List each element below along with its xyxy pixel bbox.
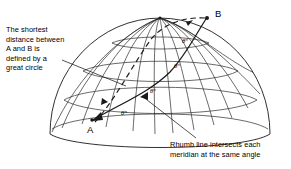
great-circle-arrowhead-lower: [101, 98, 108, 105]
leader-line-rhumb: [142, 96, 196, 138]
angle-label-3: θ°: [150, 88, 156, 94]
caption-rhumb-line: Rhumb line intersects each meridian at t…: [170, 140, 291, 159]
angle-label-1: θ°: [182, 38, 188, 44]
point-a-marker: [90, 118, 93, 121]
point-b-marker: [205, 16, 209, 20]
point-label-b: B: [215, 8, 221, 19]
point-label-a: A: [87, 124, 93, 135]
angle-label-2: θ°: [174, 63, 180, 69]
pole-point: [158, 16, 161, 19]
rhumb-line: [93, 19, 206, 120]
great-circle-arc: [95, 18, 205, 122]
caption-great-circle: The shortest distance between A and B is…: [6, 25, 92, 73]
angle-label-4: θ°: [121, 110, 127, 116]
